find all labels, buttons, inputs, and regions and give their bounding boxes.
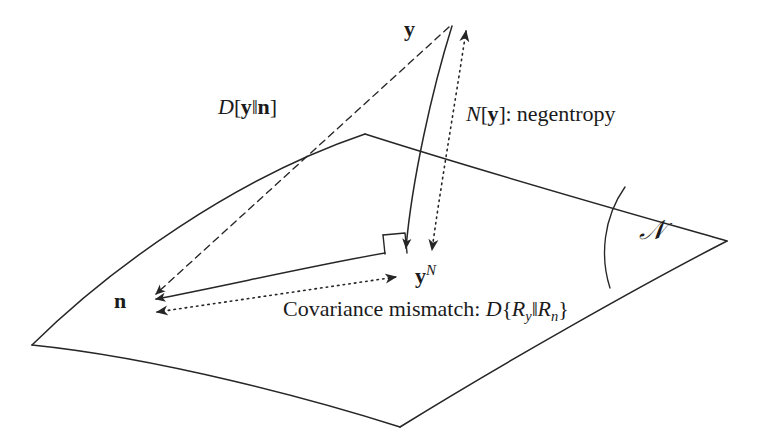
manifold-edge-top-right bbox=[365, 134, 727, 241]
label-negentropy: N[y]: negentropy bbox=[466, 103, 616, 125]
label-divergence: D[y‖n] bbox=[218, 96, 277, 118]
projection-base-curve bbox=[156, 253, 385, 299]
covariance-description: Covariance mismatch: bbox=[283, 296, 480, 321]
label-yn-vector: yN bbox=[415, 263, 436, 287]
label-manifold-symbol: 𝒩 bbox=[639, 216, 665, 244]
right-angle-marker-base bbox=[383, 235, 385, 254]
manifold-edge-bottom-left bbox=[32, 345, 400, 427]
negentropy-arrow bbox=[432, 31, 466, 250]
figure-canvas: y D[y‖n] N[y]: negentropy yN n Covarianc… bbox=[0, 0, 761, 446]
label-covariance-mismatch: Covariance mismatch: D{Ry‖Rn} bbox=[283, 298, 568, 324]
manifold-region-arc bbox=[605, 187, 625, 288]
right-angle-marker bbox=[383, 233, 407, 253]
divergence-line-y-to-n bbox=[156, 27, 449, 294]
label-n-vector: n bbox=[114, 290, 126, 312]
manifold-edge-bottom-right bbox=[400, 241, 727, 427]
negentropy-description: negentropy bbox=[517, 101, 616, 126]
label-y-vector: y bbox=[404, 18, 415, 40]
